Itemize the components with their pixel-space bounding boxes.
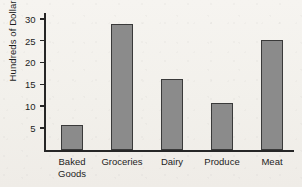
y-axis-tick: 10 — [40, 105, 46, 106]
y-axis-title: Hundreds of Dollars — [7, 0, 18, 99]
x-axis-category-label: Produce — [204, 156, 239, 168]
y-axis-tick: 20 — [40, 62, 46, 63]
bar — [211, 103, 233, 150]
bar — [61, 125, 83, 150]
y-axis-tick: 5 — [40, 127, 46, 128]
x-axis-category-label: Meat — [261, 156, 282, 168]
x-axis-category-label: Groceries — [101, 156, 142, 168]
bar-chart: Hundreds of Dollars 51015202530 Baked Go… — [0, 0, 302, 187]
y-axis-tick-label: 30 — [25, 13, 36, 24]
bar — [111, 24, 133, 150]
y-axis-tick-label: 10 — [25, 101, 36, 112]
y-axis-tick: 15 — [40, 84, 46, 85]
x-axis-line — [44, 150, 294, 152]
y-axis-tick: 30 — [40, 18, 46, 19]
x-axis-category-label: Dairy — [161, 156, 183, 168]
plot-area: 51015202530 Baked GoodsGroceriesDairyPro… — [44, 13, 294, 152]
y-axis-tick-label: 5 — [30, 122, 35, 133]
y-axis-tick-label: 25 — [25, 35, 36, 46]
y-axis-tick: 25 — [40, 40, 46, 41]
bar — [261, 40, 283, 151]
bar — [161, 79, 183, 150]
x-axis-category-label: Baked Goods — [58, 156, 86, 179]
y-axis-tick-label: 20 — [25, 57, 36, 68]
y-axis-line — [44, 13, 46, 152]
y-axis-tick-label: 15 — [25, 79, 36, 90]
